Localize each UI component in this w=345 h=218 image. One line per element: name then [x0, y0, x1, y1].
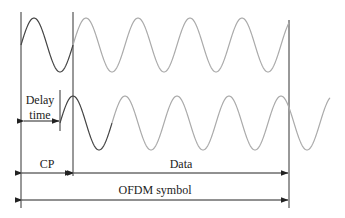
bottom-wave-cp: [60, 96, 112, 150]
cp-label: CP: [40, 157, 55, 171]
top-wave-data: [73, 18, 289, 72]
ofdm-symbol-label: OFDM symbol: [118, 183, 192, 197]
delay-label-line1: Delay: [26, 93, 55, 107]
bottom-wave-data: [112, 96, 330, 150]
top-wave-cp: [21, 18, 73, 72]
ofdm-cp-diagram: Delay time CP Data OFDM symbol: [0, 0, 345, 218]
data-label: Data: [170, 157, 193, 171]
delay-label-line2: time: [29, 108, 50, 122]
